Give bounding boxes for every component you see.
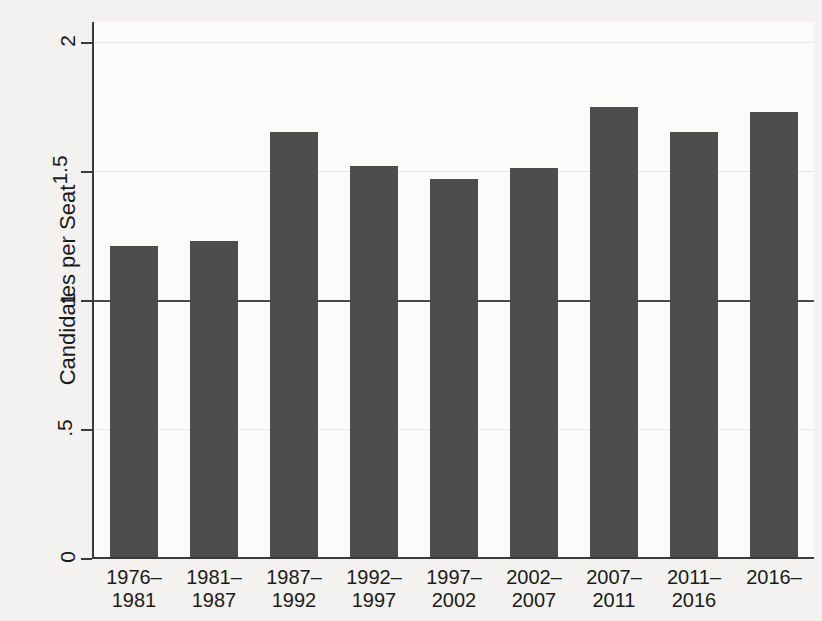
y-axis-tick-label: 2 [0, 29, 74, 53]
x-axis-tick-label: 2007– 2011 [574, 566, 654, 612]
y-axis-title: Candidates per Seat [55, 135, 81, 435]
x-axis-tick-label: 2011– 2016 [654, 566, 734, 612]
x-axis-tick-label: 1981– 1987 [174, 566, 254, 612]
y-axis-line [92, 22, 94, 559]
x-axis-tick-label: 2002– 2007 [494, 566, 574, 612]
reference-line-at-one [92, 300, 814, 302]
y-axis-tick [81, 171, 92, 173]
bar [430, 179, 478, 558]
gridline-2 [94, 42, 814, 43]
bar [190, 241, 238, 558]
bar-chart-figure: 0.511.52 1976– 19811981– 19871987– 19921… [0, 0, 822, 621]
x-axis-line [92, 557, 814, 559]
bar [270, 132, 318, 558]
bar [110, 246, 158, 558]
y-axis-tick [81, 300, 92, 302]
bar [750, 112, 798, 558]
x-axis-tick-label: 1992– 1997 [334, 566, 414, 612]
x-axis-tick-label: 1987– 1992 [254, 566, 334, 612]
y-axis-tick-label-text: 0 [56, 551, 80, 563]
y-axis-tick-label: 0 [0, 545, 74, 569]
y-axis-tick-label-text: 2 [56, 35, 80, 47]
x-axis-tick-label: 2016– [734, 566, 814, 589]
bar [590, 107, 638, 559]
y-axis-tick [81, 558, 92, 560]
x-axis-tick-label: 1997– 2002 [414, 566, 494, 612]
bar [510, 168, 558, 558]
x-axis-tick-label: 1976– 1981 [94, 566, 174, 612]
y-axis-tick [81, 42, 92, 44]
bar [350, 166, 398, 558]
y-axis-tick [81, 429, 92, 431]
bar [670, 132, 718, 558]
